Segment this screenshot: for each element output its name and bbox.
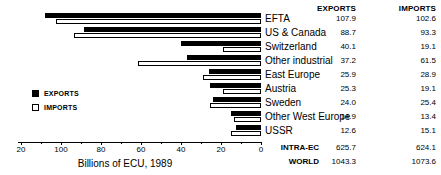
exports-value: 14.9 [340, 110, 356, 123]
legend-swatch-imports-icon [32, 104, 39, 111]
bar-imports [56, 19, 261, 24]
exports-value: 25.3 [340, 82, 356, 95]
category-label: Austria [265, 82, 296, 95]
legend-label-imports: IMPORTS [44, 104, 77, 111]
bar-imports [223, 89, 261, 94]
totals-label: INTRA-EC [281, 141, 319, 154]
imports-value: 19.1 [420, 82, 436, 95]
bar-group [0, 26, 261, 40]
chart-row: USSR12.615.1 [0, 124, 441, 138]
imports-value: 25.4 [420, 96, 436, 109]
totals-row-world: WORLD 1043.3 1073.6 [0, 155, 441, 168]
category-label: Sweden [265, 96, 301, 109]
bar-exports [187, 55, 261, 60]
totals-exports-value: 625.7 [336, 141, 356, 154]
category-label: Switzerland [265, 40, 317, 53]
bar-exports [236, 125, 261, 130]
bar-imports [210, 103, 261, 108]
trade-bar-chart: EXPORTS IMPORTS EFTA107.9102.6US & Canad… [0, 0, 441, 175]
chart-row: East Europe25.928.9 [0, 68, 441, 82]
bar-group [0, 12, 261, 26]
category-label: EFTA [265, 12, 290, 25]
legend-label-exports: EXPORTS [44, 90, 79, 97]
bar-imports [231, 131, 261, 136]
bar-imports [203, 75, 261, 80]
bar-exports [181, 41, 261, 46]
category-label: Other industrial [265, 54, 333, 67]
bar-exports [231, 111, 261, 116]
chart-row: Switzerland40.119.1 [0, 40, 441, 54]
bar-exports [213, 97, 261, 102]
legend: EXPORTS IMPORTS [32, 88, 79, 116]
bar-imports [138, 61, 261, 66]
totals-label: WORLD [289, 155, 319, 168]
category-label: US & Canada [265, 26, 326, 39]
legend-swatch-exports-icon [32, 90, 39, 97]
totals-imports-value: 1073.6 [412, 155, 436, 168]
bar-imports [234, 117, 261, 122]
chart-row: EFTA107.9102.6 [0, 12, 441, 26]
exports-value: 107.9 [336, 12, 356, 25]
imports-value: 15.1 [420, 124, 436, 137]
bar-group [0, 40, 261, 54]
bar-exports [210, 83, 261, 88]
bar-exports [45, 13, 261, 18]
exports-value: 37.2 [340, 54, 356, 67]
category-label: East Europe [265, 68, 320, 81]
bar-group [0, 124, 261, 138]
totals-row-intra-ec: INTRA-EC 625.7 624.1 [0, 141, 441, 154]
bar-imports [74, 33, 261, 38]
exports-value: 25.9 [340, 68, 356, 81]
legend-item-exports: EXPORTS [32, 88, 79, 99]
bar-group [0, 54, 261, 68]
imports-value: 61.5 [420, 54, 436, 67]
imports-value: 13.4 [420, 110, 436, 123]
totals-exports-value: 1043.3 [332, 155, 356, 168]
bar-imports [223, 47, 261, 52]
chart-row: US & Canada88.793.3 [0, 26, 441, 40]
exports-value: 24.0 [340, 96, 356, 109]
bar-group [0, 68, 261, 82]
imports-value: 102.6 [416, 12, 436, 25]
totals-imports-value: 624.1 [416, 141, 436, 154]
category-label: Other West Europe [265, 110, 350, 123]
exports-value: 40.1 [340, 40, 356, 53]
category-label: USSR [265, 124, 293, 137]
imports-value: 93.3 [420, 26, 436, 39]
legend-item-imports: IMPORTS [32, 102, 79, 113]
bar-exports [209, 69, 261, 74]
exports-value: 12.6 [340, 124, 356, 137]
imports-value: 28.9 [420, 68, 436, 81]
plot-area: EFTA107.9102.6US & Canada88.793.3Switzer… [0, 12, 441, 138]
bar-exports [84, 27, 261, 32]
exports-value: 88.7 [340, 26, 356, 39]
chart-row: Other industrial37.261.5 [0, 54, 441, 68]
imports-value: 19.1 [420, 40, 436, 53]
